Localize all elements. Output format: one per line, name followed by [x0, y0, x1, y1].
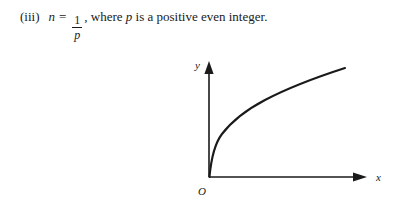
item-number-label: (iii) — [20, 10, 40, 23]
graph-figure: y x O — [180, 50, 408, 208]
statement-tail: , where p is a positive even integer. — [84, 10, 267, 23]
equals-sign: = — [59, 10, 66, 23]
origin-label: O — [198, 185, 206, 197]
y-axis-label: y — [194, 59, 200, 71]
fraction-denominator: p — [72, 28, 82, 41]
x-axis-label: x — [375, 171, 381, 183]
x-axis-arrowhead — [353, 172, 367, 181]
text-condition: is a positive even integer. — [136, 9, 268, 24]
statement-line: (iii) n = 1 p , where p is a positive ev… — [20, 10, 267, 38]
text-where: where — [91, 9, 123, 24]
variable-n: n — [49, 10, 56, 23]
curve-root-function — [210, 68, 346, 177]
fraction-numerator: 1 — [72, 14, 82, 27]
fraction-one-over-p: 1 p — [72, 14, 82, 41]
comma: , — [84, 9, 87, 24]
y-axis-arrowhead — [204, 61, 213, 74]
condition-variable-p: p — [126, 9, 133, 24]
